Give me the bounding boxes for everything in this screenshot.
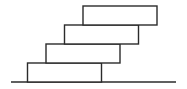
block-3 (65, 25, 139, 44)
blocks-group (28, 6, 158, 82)
block-1 (28, 63, 102, 82)
block-4 (83, 6, 157, 25)
block-2 (46, 44, 120, 63)
stacked-blocks-diagram (0, 0, 187, 89)
